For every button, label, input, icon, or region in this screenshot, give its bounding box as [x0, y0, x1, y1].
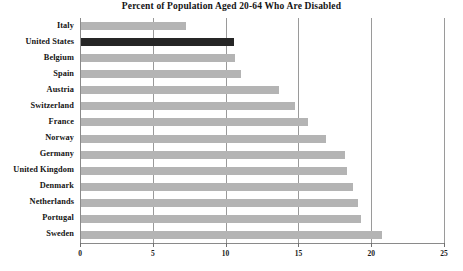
x-tick-mark-0: [80, 243, 81, 247]
x-tick-mark-20: [371, 243, 372, 247]
category-label-germany: Germany: [0, 149, 74, 158]
bar-united-states: [81, 38, 234, 46]
bar-netherlands: [81, 199, 358, 207]
x-tick-label-10: 10: [211, 249, 241, 258]
chart-title: Percent of Population Aged 20-64 Who Are…: [0, 1, 463, 11]
bar-denmark: [81, 183, 353, 191]
category-label-united-states: United States: [0, 37, 74, 46]
x-tick-mark-5: [153, 243, 154, 247]
category-label-austria: Austria: [0, 85, 74, 94]
category-label-denmark: Denmark: [0, 181, 74, 190]
category-label-portugal: Portugal: [0, 213, 74, 222]
bar-italy: [81, 22, 186, 30]
category-label-belgium: Belgium: [0, 53, 74, 62]
x-tick-label-0: 0: [65, 249, 95, 258]
category-label-spain: Spain: [0, 69, 74, 78]
gridline-20: [371, 18, 372, 244]
bar-sweden: [81, 231, 382, 239]
x-tick-mark-10: [226, 243, 227, 247]
x-tick-label-15: 15: [283, 249, 313, 258]
gridline-25: [444, 18, 445, 244]
gridline-15: [298, 18, 299, 244]
x-tick-label-5: 5: [138, 249, 168, 258]
gridline-5: [153, 18, 154, 244]
x-tick-label-25: 25: [429, 249, 459, 258]
bar-france: [81, 118, 308, 126]
x-tick-mark-25: [444, 243, 445, 247]
bar-chart: Percent of Population Aged 20-64 Who Are…: [0, 0, 463, 271]
x-tick-mark-15: [298, 243, 299, 247]
bar-portugal: [81, 215, 361, 223]
category-label-norway: Norway: [0, 133, 74, 142]
bar-austria: [81, 86, 279, 94]
gridline-10: [226, 18, 227, 244]
bar-germany: [81, 151, 345, 159]
bar-norway: [81, 135, 326, 143]
x-axis-line: [80, 243, 445, 244]
bar-switzerland: [81, 102, 295, 110]
category-label-france: France: [0, 117, 74, 126]
bar-united-kingdom: [81, 167, 347, 175]
category-label-switzerland: Switzerland: [0, 101, 74, 110]
category-label-united-kingdom: United Kingdom: [0, 165, 74, 174]
category-label-netherlands: Netherlands: [0, 197, 74, 206]
x-tick-label-20: 20: [356, 249, 386, 258]
bar-belgium: [81, 54, 235, 62]
bar-spain: [81, 70, 241, 78]
y-axis-line: [80, 18, 81, 244]
category-label-italy: Italy: [0, 21, 74, 30]
category-label-sweden: Sweden: [0, 229, 74, 238]
